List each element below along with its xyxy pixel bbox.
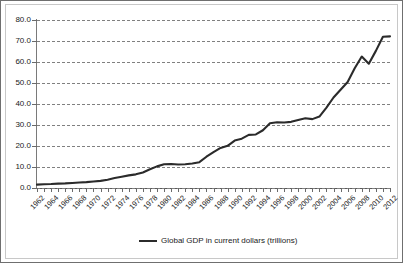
x-tick-mark — [115, 188, 116, 192]
x-tick-mark — [199, 188, 200, 192]
x-tick-mark — [277, 188, 278, 192]
x-tick-mark — [242, 188, 243, 192]
x-tick-mark — [334, 188, 335, 192]
legend-label: Global GDP in current dollars (trillions… — [161, 237, 297, 245]
y-axis-tick-label: 40.0 — [1, 100, 31, 108]
y-tick-mark — [32, 146, 37, 147]
x-tick-mark — [101, 188, 102, 192]
x-tick-mark — [171, 188, 172, 192]
x-tick-mark — [72, 188, 73, 192]
gridline — [37, 62, 390, 63]
x-tick-mark — [221, 188, 222, 192]
gridline — [37, 125, 390, 126]
legend-line-swatch — [139, 240, 157, 242]
chart-legend: Global GDP in current dollars (trillions… — [139, 237, 297, 245]
x-tick-mark — [192, 188, 193, 192]
y-tick-mark — [32, 125, 37, 126]
x-tick-mark — [376, 188, 377, 192]
x-tick-mark — [298, 188, 299, 192]
x-tick-mark — [51, 188, 52, 192]
x-tick-mark — [150, 188, 151, 192]
y-axis-tick-label: 70.0 — [1, 37, 31, 45]
x-tick-mark — [37, 188, 38, 192]
x-tick-mark — [235, 188, 236, 192]
gridline — [37, 104, 390, 105]
x-tick-mark — [305, 188, 306, 192]
x-tick-mark — [312, 188, 313, 192]
x-tick-mark — [178, 188, 179, 192]
y-tick-mark — [32, 83, 37, 84]
y-tick-mark — [32, 104, 37, 105]
x-tick-mark — [270, 188, 271, 192]
x-tick-mark — [93, 188, 94, 192]
x-tick-mark — [383, 188, 384, 192]
x-tick-mark — [284, 188, 285, 192]
x-tick-mark — [164, 188, 165, 192]
x-tick-mark — [228, 188, 229, 192]
x-tick-mark — [58, 188, 59, 192]
x-tick-mark — [348, 188, 349, 192]
chart-figure: 0.010.020.030.040.050.060.070.080.0 1962… — [0, 0, 403, 263]
x-tick-mark — [390, 188, 391, 192]
y-tick-mark — [32, 20, 37, 21]
x-tick-mark — [355, 188, 356, 192]
x-tick-mark — [143, 188, 144, 192]
x-tick-mark — [136, 188, 137, 192]
x-tick-mark — [44, 188, 45, 192]
x-tick-mark — [206, 188, 207, 192]
y-tick-mark — [32, 62, 37, 63]
x-tick-mark — [326, 188, 327, 192]
x-tick-mark — [249, 188, 250, 192]
x-tick-mark — [341, 188, 342, 192]
gridline — [37, 83, 390, 84]
y-axis-labels: 0.010.020.030.040.050.060.070.080.0 — [0, 0, 31, 263]
gridline — [37, 167, 390, 168]
y-axis-tick-label: 50.0 — [1, 79, 31, 87]
y-axis-tick-label: 30.0 — [1, 121, 31, 129]
gridline — [37, 146, 390, 147]
gridlines — [37, 20, 390, 188]
y-tick-mark — [32, 167, 37, 168]
x-tick-mark — [256, 188, 257, 192]
x-tick-mark — [122, 188, 123, 192]
x-tick-mark — [362, 188, 363, 192]
y-axis-tick-label: 60.0 — [1, 58, 31, 66]
x-tick-mark — [65, 188, 66, 192]
y-axis-tick-label: 0.0 — [1, 184, 31, 192]
x-tick-mark — [263, 188, 264, 192]
x-tick-mark — [214, 188, 215, 192]
y-axis-tick-label: 80.0 — [1, 16, 31, 24]
x-tick-mark — [79, 188, 80, 192]
x-tick-mark — [291, 188, 292, 192]
x-tick-mark — [157, 188, 158, 192]
y-tick-mark — [32, 41, 37, 42]
gridline — [37, 20, 390, 21]
y-axis-tick-label: 20.0 — [1, 142, 31, 150]
x-tick-mark — [185, 188, 186, 192]
x-tick-mark — [86, 188, 87, 192]
y-axis-tick-label: 10.0 — [1, 163, 31, 171]
x-tick-mark — [319, 188, 320, 192]
x-tick-mark — [129, 188, 130, 192]
gridline — [37, 41, 390, 42]
x-tick-mark — [108, 188, 109, 192]
x-tick-mark — [369, 188, 370, 192]
